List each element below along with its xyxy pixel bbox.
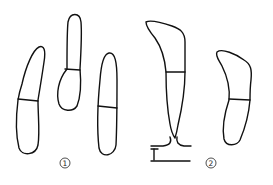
- spore-c: [98, 53, 117, 155]
- label-text-1: 1: [63, 159, 68, 168]
- label-group-1: 1: [60, 158, 70, 168]
- spore-stalk-base: [151, 137, 191, 161]
- spore-illustration: 1 2: [0, 0, 273, 185]
- spore-e: [216, 51, 251, 145]
- label-text-2: 2: [209, 159, 214, 168]
- label-group-2: 2: [206, 158, 216, 168]
- spore-b: [58, 15, 82, 111]
- spore-group-2: [146, 21, 251, 161]
- spore-drawing: 1 2: [0, 0, 273, 185]
- spore-d: [146, 21, 185, 138]
- spore-group-1: [17, 15, 117, 155]
- spore-a: [17, 47, 45, 154]
